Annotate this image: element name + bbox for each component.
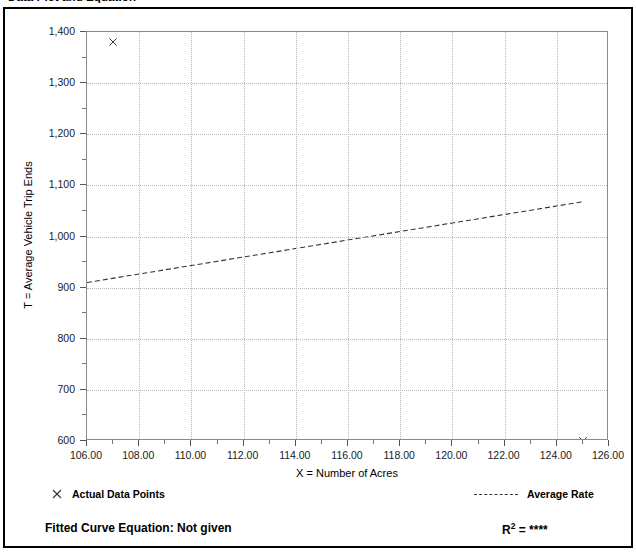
gridline-horizontal <box>87 83 607 84</box>
x-axis-minor-tick <box>217 440 218 444</box>
x-axis-tick <box>399 440 400 446</box>
gridline-vertical <box>139 32 140 439</box>
y-axis-tick-label: 600 <box>0 434 75 446</box>
x-axis-tick <box>347 440 348 446</box>
x-axis-title: X = Number of Acres <box>86 467 608 479</box>
x-axis-tick-label: 116.00 <box>331 449 362 461</box>
y-axis-tick-label: 1,300 <box>0 76 75 88</box>
gridline-horizontal <box>87 134 607 135</box>
x-axis-tick-label: 110.00 <box>175 449 206 461</box>
x-axis-tick-label: 120.00 <box>435 449 467 461</box>
gridline-vertical <box>296 32 297 439</box>
x-axis-tick <box>86 440 87 446</box>
x-axis-minor-tick <box>530 440 531 444</box>
x-axis-tick-label: 118.00 <box>384 449 415 461</box>
x-axis-minor-tick <box>582 440 583 444</box>
gridline-horizontal <box>87 288 607 289</box>
x-axis-minor-tick <box>425 440 426 444</box>
plot-area <box>86 31 608 440</box>
x-axis-tick <box>138 440 139 446</box>
gridline-vertical <box>505 32 506 439</box>
page-title: Data Plot and Equation <box>8 0 136 3</box>
x-axis-tick <box>295 440 296 446</box>
y-axis-tick-label: 1,400 <box>0 25 75 37</box>
chart-page: Data Plot and Equation T = Average Vehic… <box>0 0 636 553</box>
gridline-vertical <box>557 32 558 439</box>
gridline-vertical <box>400 32 401 439</box>
fitted-curve-equation: Fitted Curve Equation: Not given <box>45 521 232 535</box>
data-point-marker <box>109 38 118 47</box>
y-axis-tick-label: 800 <box>0 332 75 344</box>
gridline-vertical <box>348 32 349 439</box>
r-squared-value: R2 = **** <box>502 521 548 537</box>
x-axis-tick <box>504 440 505 446</box>
x-marker-icon <box>52 489 62 499</box>
x-axis-tick-label: 122.00 <box>488 449 520 461</box>
legend-label-data-points: Actual Data Points <box>72 488 165 500</box>
chart-legend: Actual Data Points Average Rate <box>0 488 636 510</box>
x-axis-tick <box>243 440 244 446</box>
legend-item-data-points: Actual Data Points <box>52 488 165 500</box>
x-axis-minor-tick <box>164 440 165 444</box>
y-axis-tick-label: 900 <box>0 281 75 293</box>
x-axis-minor-tick <box>373 440 374 444</box>
r-squared-equals: = <box>515 523 529 537</box>
x-axis-tick-label: 106.00 <box>70 449 102 461</box>
x-axis-tick-label: 108.00 <box>122 449 154 461</box>
legend-item-average-rate: Average Rate <box>474 488 594 500</box>
gridline-vertical <box>452 32 453 439</box>
equation-row: Fitted Curve Equation: Not given R2 = **… <box>0 521 636 545</box>
x-axis-tick-label: 126.00 <box>592 449 624 461</box>
y-axis-tick-label: 700 <box>0 383 75 395</box>
x-axis-tick <box>451 440 452 446</box>
legend-label-average-rate: Average Rate <box>527 488 594 500</box>
gridline-vertical <box>244 32 245 439</box>
y-axis-tick-label: 1,100 <box>0 178 75 190</box>
r-squared-stars: **** <box>529 523 548 537</box>
x-axis-tick <box>190 440 191 446</box>
x-axis-tick <box>556 440 557 446</box>
x-axis-tick-label: 114.00 <box>279 449 310 461</box>
gridline-horizontal <box>87 339 607 340</box>
r-squared-prefix: R <box>502 523 511 537</box>
page-header: Data Plot and Equation <box>0 0 636 7</box>
x-axis-tick-label: 112.00 <box>227 449 258 461</box>
dashed-line-icon <box>474 494 518 495</box>
average-rate-trend-line <box>87 32 607 439</box>
gridline-horizontal <box>87 237 607 238</box>
data-point-marker <box>578 437 587 440</box>
y-axis-tick-label: 1,000 <box>0 230 75 242</box>
x-axis-minor-tick <box>269 440 270 444</box>
x-axis-minor-tick <box>112 440 113 444</box>
y-axis-tick-label: 1,200 <box>0 127 75 139</box>
gridline-horizontal <box>87 185 607 186</box>
x-axis-minor-tick <box>478 440 479 444</box>
gridline-horizontal <box>87 390 607 391</box>
x-axis-tick-label: 124.00 <box>540 449 572 461</box>
x-axis-minor-tick <box>321 440 322 444</box>
x-axis-tick <box>608 440 609 446</box>
gridline-vertical <box>191 32 192 439</box>
